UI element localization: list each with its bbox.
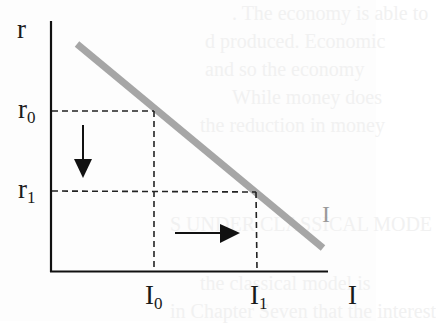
r1-dashed-guide (52, 191, 256, 192)
I0-base: I (145, 280, 154, 310)
r0-tick-label: r0 (18, 96, 36, 126)
y-axis-label: r (17, 16, 26, 43)
r0-base: r (18, 94, 27, 124)
curve-label: I (322, 202, 330, 226)
I1-dashed-guide (256, 192, 257, 270)
r1-tick-label: r1 (18, 176, 36, 206)
I1-tick-label: I1 (250, 282, 268, 312)
x-axis-label: I (348, 282, 357, 309)
r0-subscript: 0 (27, 108, 36, 127)
I0-tick-label: I0 (145, 282, 163, 312)
I0-subscript: 0 (154, 294, 163, 313)
investment-curve (77, 44, 323, 248)
down-arrow-icon (74, 125, 92, 178)
right-arrow-icon (175, 224, 240, 243)
I1-subscript: 1 (259, 294, 268, 313)
r1-subscript: 1 (27, 188, 36, 207)
I1-base: I (250, 280, 259, 310)
r1-base: r (18, 174, 27, 204)
